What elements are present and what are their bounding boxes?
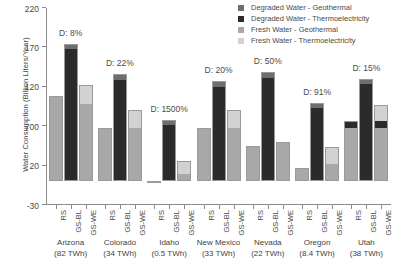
x-axis-tick <box>253 205 254 209</box>
bar-rs[interactable] <box>49 96 63 181</box>
x-axis-tick-label: GS-BL <box>369 210 378 233</box>
group-state-name: Nevada <box>251 238 284 247</box>
x-axis-tick-label: GS-BL <box>222 210 231 233</box>
legend-swatch-icon <box>238 5 244 11</box>
bar-outline <box>113 74 127 181</box>
x-axis-tick <box>366 205 367 209</box>
bar-gs-bl[interactable] <box>64 44 78 181</box>
x-axis-tick-label: GS-WE <box>286 210 295 235</box>
group-annotation: D: 15% <box>352 63 380 73</box>
y-axis-tick-label: 700 <box>25 122 39 132</box>
x-axis-tick-label: GS-BL <box>320 210 329 233</box>
group-energy-value: (22 TWh) <box>251 249 284 258</box>
legend-item[interactable]: Fresh Water - Thermoelectricity <box>238 35 369 46</box>
group-annotation: D: 20% <box>205 65 233 75</box>
legend-item[interactable]: Fresh Water - Geothermal <box>238 24 369 35</box>
x-axis-tick <box>105 205 106 209</box>
y-axis-tick-label: 220 <box>25 4 39 14</box>
bar-outline <box>359 79 373 181</box>
bar-gs-we[interactable] <box>325 147 339 182</box>
x-axis-tick-label: GS-BL <box>123 210 132 233</box>
legend-swatch-icon <box>238 38 244 44</box>
bar-outline <box>197 128 211 182</box>
x-axis-tick <box>283 205 284 209</box>
x-axis-tick <box>71 205 72 209</box>
group-caption: Idaho(0.5 TWh) <box>151 238 186 258</box>
group-energy-value: (33 TWh) <box>197 249 241 258</box>
bar-outline <box>98 128 112 182</box>
x-axis-tick-label: GS-BL <box>172 210 181 233</box>
bar-rs[interactable] <box>344 121 358 182</box>
y-axis-title: Water Consumption (Billion Liters/Year) <box>21 15 30 195</box>
legend-item[interactable]: Degraded Water - Thermoelectricity <box>238 13 369 24</box>
x-axis-tick-label: GS-WE <box>237 210 246 235</box>
bar-outline <box>162 120 176 181</box>
x-axis-tick <box>302 205 303 209</box>
bar-gs-we[interactable] <box>177 161 191 181</box>
bar-gs-we[interactable] <box>128 110 142 181</box>
group-caption: Nevada(22 TWh) <box>251 238 284 258</box>
group-caption: New Mexico(33 TWh) <box>197 238 241 258</box>
group-captions: Arizona(82 TWh)Colorado(34 TWh)Idaho(0.5… <box>46 238 391 272</box>
y-axis-tick <box>42 204 46 205</box>
x-axis-tick <box>268 205 269 209</box>
x-axis-tick-label: GS-WE <box>138 210 147 235</box>
x-axis-tick-label: GS-WE <box>89 210 98 235</box>
bar-rs[interactable] <box>147 181 161 182</box>
x-axis-tick-label: RS <box>108 210 117 220</box>
bar-rs[interactable] <box>295 168 309 181</box>
group-caption: Utah(38 TWh) <box>350 238 383 258</box>
bar-outline <box>276 142 290 181</box>
y-axis-tick <box>42 125 46 126</box>
x-axis-tick <box>317 205 318 209</box>
x-axis-tick-label: RS <box>59 210 68 220</box>
x-axis-tick <box>351 205 352 209</box>
bar-outline <box>79 85 93 181</box>
group-state-name: Idaho <box>151 238 186 247</box>
x-axis-tick <box>169 205 170 209</box>
bar-gs-bl[interactable] <box>113 74 127 181</box>
group-state-name: Arizona <box>54 238 87 247</box>
bar-gs-bl[interactable] <box>310 103 324 181</box>
bar-outline <box>325 147 339 182</box>
bar-outline <box>261 72 275 182</box>
legend-label: Degraded Water - Geothermal <box>251 3 352 12</box>
bar-outline <box>128 110 142 181</box>
group-annotation: D: 8% <box>59 28 82 38</box>
bar-gs-bl[interactable] <box>162 120 176 181</box>
y-axis-tick <box>42 86 46 87</box>
legend-swatch-icon <box>238 27 244 33</box>
y-axis-tick <box>42 7 46 8</box>
x-axis-tick-label: RS <box>256 210 265 220</box>
group-annotation: D: 50% <box>254 56 282 66</box>
group-state-name: Oregon <box>299 238 334 247</box>
group-annotation: D: 22% <box>106 58 134 68</box>
bar-gs-we[interactable] <box>276 142 290 181</box>
bar-gs-bl[interactable] <box>212 81 226 181</box>
bar-gs-bl[interactable] <box>261 72 275 182</box>
legend-label: Fresh Water - Geothermal <box>251 25 338 34</box>
x-axis-tick-label: RS <box>207 210 216 220</box>
x-axis-tick <box>381 205 382 209</box>
group-state-name: Utah <box>350 238 383 247</box>
bar-gs-bl[interactable] <box>359 79 373 181</box>
bar-group-colorado: RSGS-BLGS-WE <box>98 8 142 205</box>
group-annotation: D: 91% <box>303 87 331 97</box>
x-axis-tick-label: GS-BL <box>271 210 280 233</box>
group-energy-value: (38 TWh) <box>350 249 383 258</box>
bar-rs[interactable] <box>197 128 211 182</box>
chart-legend: Degraded Water - GeothermalDegraded Wate… <box>238 2 369 46</box>
legend-item[interactable]: Degraded Water - Geothermal <box>238 2 369 13</box>
legend-label: Degraded Water - Thermoelectricity <box>251 14 369 23</box>
bar-rs[interactable] <box>98 128 112 182</box>
x-axis-tick <box>120 205 121 209</box>
group-caption: Oregon(8.4 TWh) <box>299 238 334 258</box>
bar-gs-we[interactable] <box>227 110 241 181</box>
x-axis-tick <box>56 205 57 209</box>
bar-gs-we[interactable] <box>79 85 93 181</box>
bar-outline <box>64 44 78 181</box>
bar-gs-we[interactable] <box>374 105 388 181</box>
y-axis-tick-label: 120 <box>25 82 39 92</box>
bar-rs[interactable] <box>246 146 260 181</box>
bar-outline <box>147 181 161 183</box>
